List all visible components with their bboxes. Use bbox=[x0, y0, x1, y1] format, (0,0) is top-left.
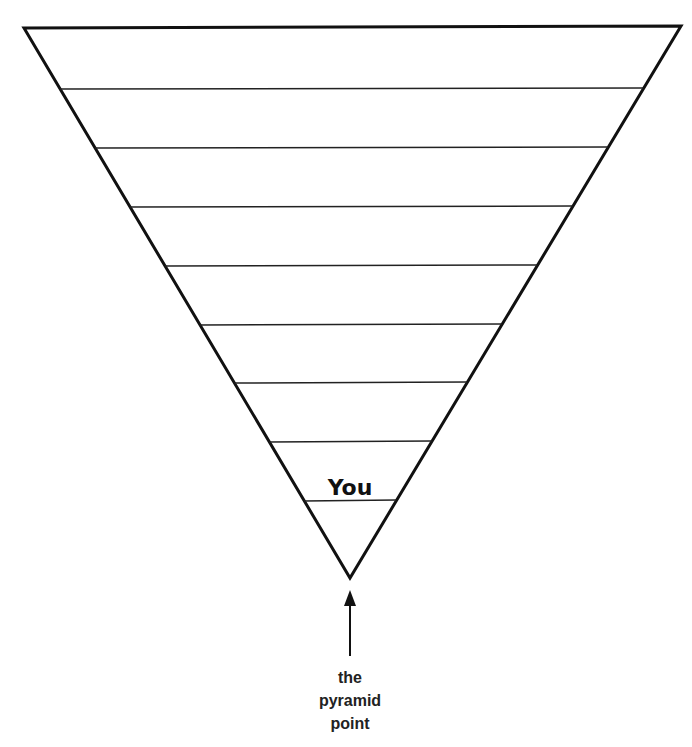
caption-line-2: pyramid bbox=[319, 692, 381, 709]
level-divider bbox=[304, 500, 396, 501]
level-divider bbox=[165, 265, 537, 266]
level-divider bbox=[130, 206, 572, 207]
level-divider bbox=[269, 441, 431, 442]
level-divider bbox=[95, 147, 608, 148]
level-dividers bbox=[60, 88, 643, 501]
level-divider bbox=[60, 88, 643, 89]
level-divider bbox=[234, 382, 467, 383]
inverted-pyramid-diagram: You the pyramid point bbox=[0, 0, 692, 747]
caption-line-1: the bbox=[338, 669, 362, 686]
you-label: You bbox=[327, 475, 373, 500]
caption-line-3: point bbox=[330, 715, 370, 732]
up-arrow-icon bbox=[344, 590, 356, 656]
level-divider bbox=[200, 324, 502, 325]
